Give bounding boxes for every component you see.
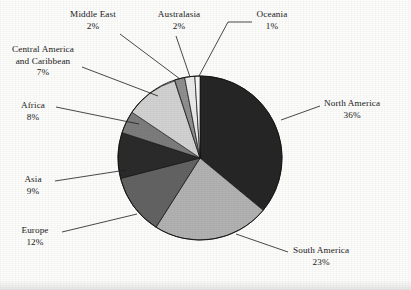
label-south-america-value: 23%: [293, 257, 349, 269]
leader-line-central-america-caribbean: [82, 67, 158, 96]
label-central-america-caribbean-value: 7%: [5, 67, 81, 79]
label-central-america-caribbean: Central America and Caribbean 7%: [5, 44, 81, 79]
label-africa-name: Africa: [12, 100, 54, 112]
leader-line-australasia: [176, 36, 190, 77]
label-north-america-name: North America: [324, 98, 380, 110]
label-asia-value: 9%: [14, 186, 52, 198]
label-middle-east: Middle East 2%: [64, 9, 122, 32]
label-oceania-value: 1%: [252, 21, 292, 33]
label-europe: Europe 12%: [12, 225, 58, 248]
leader-line-asia: [55, 170, 126, 181]
label-oceania: Oceania 1%: [252, 9, 292, 32]
label-asia-name: Asia: [14, 174, 52, 186]
leader-line-middle-east: [120, 34, 180, 79]
label-europe-name: Europe: [12, 225, 58, 237]
leader-line-south-america: [236, 234, 288, 252]
leader-line-africa: [56, 107, 139, 124]
label-south-america-name: South America: [293, 245, 349, 257]
label-middle-east-value: 2%: [64, 21, 122, 33]
label-australasia-value: 2%: [152, 21, 206, 33]
label-north-america-value: 36%: [324, 110, 380, 122]
label-europe-value: 12%: [12, 237, 58, 249]
label-australasia: Australasia 2%: [152, 9, 206, 32]
label-central-america-caribbean-name-line2: and Caribbean: [5, 56, 81, 68]
label-africa-value: 8%: [12, 112, 54, 124]
leader-line-europe: [62, 214, 137, 232]
label-oceania-name: Oceania: [252, 9, 292, 21]
label-south-america: South America 23%: [293, 245, 349, 268]
label-middle-east-name: Middle East: [64, 9, 122, 21]
leader-line-north-america: [281, 106, 320, 120]
leader-line-oceania: [199, 22, 252, 76]
label-australasia-name: Australasia: [152, 9, 206, 21]
label-africa: Africa 8%: [12, 100, 54, 123]
label-central-america-caribbean-name-line1: Central America: [5, 44, 81, 56]
pie-chart-figure: North America 36% South America 23% Euro…: [0, 0, 411, 290]
label-north-america: North America 36%: [324, 98, 380, 121]
label-asia: Asia 9%: [14, 174, 52, 197]
